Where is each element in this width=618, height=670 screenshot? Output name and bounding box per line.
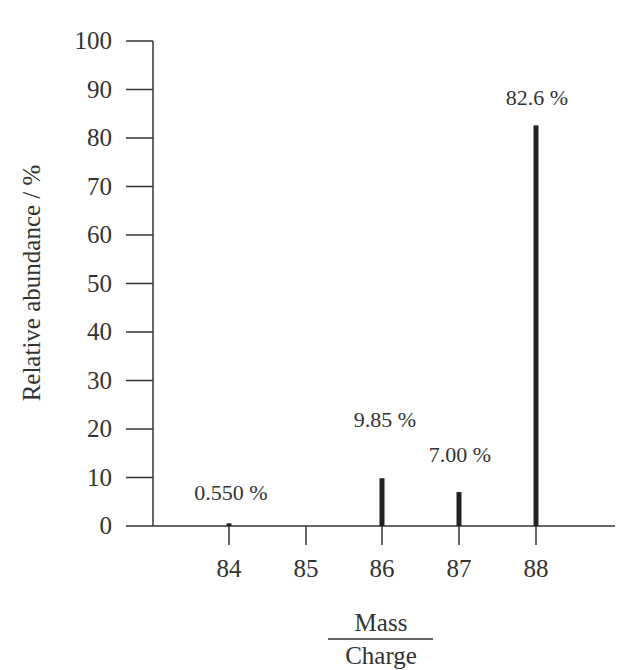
data-label-84: 0.550 % — [194, 480, 267, 505]
y-tick-label: 90 — [87, 76, 112, 103]
y-tick-label: 0 — [100, 512, 113, 539]
mass-spectrum-chart: 0102030405060708090100 8485868788 0.550 … — [0, 0, 618, 670]
bar-88 — [534, 125, 539, 526]
x-tick-label: 84 — [217, 555, 243, 582]
y-tick-label: 60 — [87, 221, 112, 248]
x-axis-title-numerator: Mass — [355, 609, 408, 636]
y-axis: 0102030405060708090100 — [75, 27, 154, 539]
y-tick-label: 70 — [87, 173, 112, 200]
data-label-88: 82.6 % — [506, 85, 568, 110]
bar-84 — [227, 523, 232, 526]
bar-86 — [380, 478, 385, 526]
y-tick-label: 80 — [87, 124, 112, 151]
y-tick-label: 10 — [87, 464, 112, 491]
y-tick-label: 20 — [87, 415, 112, 442]
x-tick-label: 88 — [524, 555, 549, 582]
y-tick-label: 100 — [75, 27, 113, 54]
bars — [227, 125, 539, 526]
y-tick-label: 30 — [87, 367, 112, 394]
x-tick-label: 85 — [294, 555, 319, 582]
x-tick-label: 86 — [370, 555, 395, 582]
x-axis: 8485868788 — [153, 526, 615, 582]
data-label-86: 9.85 % — [354, 407, 416, 432]
bar-87 — [457, 492, 462, 526]
data-labels: 0.550 %9.85 %7.00 %82.6 % — [194, 85, 568, 505]
y-tick-label: 40 — [87, 318, 112, 345]
x-axis-title-denominator: Charge — [345, 642, 417, 669]
x-tick-label: 87 — [447, 555, 472, 582]
data-label-87: 7.00 % — [429, 442, 491, 467]
y-axis-title: Relative abundance / % — [18, 165, 45, 402]
y-tick-label: 50 — [87, 270, 112, 297]
